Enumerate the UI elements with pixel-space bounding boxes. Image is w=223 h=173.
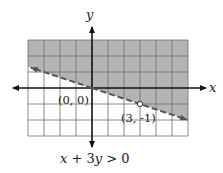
y-axis-label: y xyxy=(85,7,94,22)
x-axis-label: x xyxy=(209,80,217,95)
test-point-marker xyxy=(137,101,142,106)
test-point-label: (3, -1) xyxy=(121,111,156,125)
inequality-caption: x + 3y > 0 xyxy=(60,151,130,166)
inequality-graph: y x (0, 0) (3, -1) x + 3y > 0 xyxy=(0,0,223,173)
origin-label: (0, 0) xyxy=(58,93,89,107)
caption-end: > 0 xyxy=(102,151,129,166)
caption-mid: + 3 xyxy=(67,151,94,166)
